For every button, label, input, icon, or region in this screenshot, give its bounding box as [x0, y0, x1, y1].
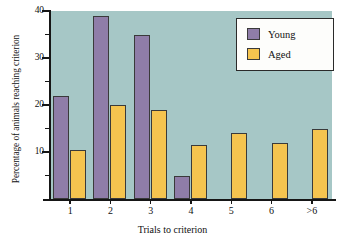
x-tick — [69, 199, 71, 204]
y-tick-label: 30 — [18, 52, 44, 62]
x-tick — [190, 199, 192, 204]
y-tick-minor — [45, 34, 50, 36]
x-axis-title: Trials to criterion — [0, 224, 345, 235]
chart-legend: Young Aged — [236, 18, 334, 71]
bar-young-1 — [53, 96, 69, 199]
bar-aged-4 — [191, 145, 207, 199]
legend-swatch-young-icon — [247, 28, 260, 40]
x-tick-label: 6 — [257, 205, 287, 216]
bar-young-3 — [134, 35, 150, 200]
bar-aged-3 — [151, 110, 167, 199]
x-tick — [311, 199, 313, 204]
y-axis-title: Percentage of animals reaching criterion — [11, 9, 21, 209]
y-tick-label: 10 — [18, 146, 44, 156]
legend-entry-aged: Aged — [247, 48, 291, 60]
y-tick-label: 20 — [18, 99, 44, 109]
bar-aged-5 — [231, 133, 247, 199]
bar-aged-1 — [70, 150, 86, 199]
x-tick — [110, 199, 112, 204]
x-tick-label: 1 — [55, 205, 85, 216]
x-tick — [271, 199, 273, 204]
bar-aged-gt6 — [312, 129, 328, 200]
bar-chart-figure: Percentage of animals reaching criterion… — [0, 0, 345, 244]
x-tick-label: 4 — [176, 205, 206, 216]
y-tick-minor — [45, 81, 50, 83]
bar-young-2 — [93, 16, 109, 199]
bar-aged-6 — [272, 143, 288, 199]
legend-label-young: Young — [268, 29, 296, 40]
bar-aged-2 — [110, 105, 126, 199]
legend-entry-young: Young — [247, 28, 296, 40]
y-tick-minor — [45, 175, 50, 177]
x-tick-label: 2 — [95, 205, 125, 216]
y-tick-label: 40 — [18, 5, 44, 15]
y-tick-minor — [45, 128, 50, 130]
legend-swatch-aged-icon — [247, 48, 260, 60]
x-tick-label: 3 — [136, 205, 166, 216]
x-tick — [150, 199, 152, 204]
x-tick-label: >6 — [297, 205, 327, 216]
x-tick-label: 5 — [216, 205, 246, 216]
legend-label-aged: Aged — [268, 49, 291, 60]
x-tick — [231, 199, 233, 204]
bar-young-4 — [174, 176, 190, 200]
